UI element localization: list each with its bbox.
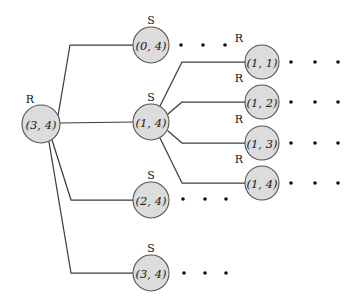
tree-edge-root-to-m2 — [52, 140, 133, 200]
ellipsis-dot — [289, 141, 293, 145]
ellipsis-dot — [313, 100, 317, 104]
node-label-r1: (1, 1) — [247, 56, 278, 70]
ellipsis-dot — [224, 271, 228, 275]
ellipsis-dot — [203, 197, 207, 201]
tree-node-m2[interactable]: S(2, 4) — [133, 169, 169, 219]
node-label-m0: (0, 4) — [136, 39, 167, 53]
dots-after-1-2 — [289, 100, 340, 104]
node-type-label-root: R — [26, 93, 35, 106]
tree-node-m0[interactable]: S(0, 4) — [133, 14, 169, 64]
node-type-label-r2: R — [235, 72, 244, 85]
tree-diagram-canvas: R(3, 4)S(0, 4)S(1, 4)S(2, 4)S(3, 4)R(1, … — [0, 0, 358, 307]
ellipsis-dot — [179, 43, 183, 47]
dots-after-1-3 — [289, 141, 340, 145]
ellipsis-dot — [182, 271, 186, 275]
ellipsis-dot — [336, 141, 340, 145]
ellipsis-dot — [313, 181, 317, 185]
tree-edge-m1-to-r1 — [160, 62, 245, 106]
ellipsis-dot — [289, 100, 293, 104]
ellipsis-dot — [289, 60, 293, 64]
node-label-m1: (1, 4) — [136, 116, 167, 130]
tree-edge-m1-to-r3 — [168, 131, 245, 143]
node-type-label-m1: S — [147, 91, 155, 104]
dots-after-1-1 — [289, 60, 340, 64]
edges-layer — [49, 45, 245, 273]
tree-edge-root-to-m3 — [49, 142, 133, 273]
ellipsis-dot — [181, 197, 185, 201]
node-label-root: (3, 4) — [26, 118, 57, 132]
tree-node-m3[interactable]: S(3, 4) — [133, 242, 169, 292]
ellipsis-dot — [313, 60, 317, 64]
node-type-label-r3: R — [235, 113, 244, 126]
node-type-label-r1: R — [235, 32, 244, 45]
tree-edge-root-to-m1 — [60, 122, 133, 123]
node-type-label-r4: R — [235, 153, 244, 166]
ellipsis-dot — [336, 60, 340, 64]
node-label-m3: (3, 4) — [136, 267, 167, 281]
tree-edge-root-to-m0 — [58, 45, 133, 116]
ellipsis-dot — [203, 271, 207, 275]
ellipsis-dot — [336, 100, 340, 104]
node-label-r4: (1, 4) — [247, 177, 278, 191]
tree-edge-m1-to-r4 — [160, 138, 245, 183]
node-label-r3: (1, 3) — [247, 137, 278, 151]
nodes-layer: R(3, 4)S(0, 4)S(1, 4)S(2, 4)S(3, 4)R(1, … — [22, 14, 279, 292]
node-type-label-m3: S — [147, 242, 155, 255]
ellipsis-dot — [223, 43, 227, 47]
dots-after-1-4 — [289, 181, 340, 185]
node-type-label-m0: S — [147, 14, 155, 27]
node-label-m2: (2, 4) — [136, 194, 167, 208]
ellipsis-dot — [201, 43, 205, 47]
tree-node-root[interactable]: R(3, 4) — [22, 93, 60, 144]
node-label-r2: (1, 2) — [247, 96, 278, 110]
tree-diagram: R(3, 4)S(0, 4)S(1, 4)S(2, 4)S(3, 4)R(1, … — [0, 0, 358, 307]
ellipsis-dot — [313, 141, 317, 145]
dots-after-0-4 — [179, 43, 227, 47]
ellipsis-dot — [289, 181, 293, 185]
ellipsis-dot — [224, 197, 228, 201]
node-type-label-m2: S — [147, 169, 155, 182]
tree-edge-m1-to-r2 — [168, 102, 245, 114]
ellipsis-dot — [336, 181, 340, 185]
dots-after-2-4 — [181, 197, 228, 201]
dots-after-3-4 — [182, 271, 228, 275]
